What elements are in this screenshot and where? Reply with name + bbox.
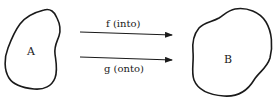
arrow-g (80, 57, 172, 60)
diagram-shapes (0, 0, 275, 101)
set-b-label: B (224, 54, 232, 65)
arrow-f (80, 32, 172, 35)
mapping-f-label: f (into) (106, 19, 140, 29)
set-a-label: A (27, 46, 35, 57)
set-b-blob (193, 9, 272, 97)
mapping-g-label: g (onto) (104, 64, 144, 74)
diagram-canvas: A B f (into) g (onto) (0, 0, 275, 101)
